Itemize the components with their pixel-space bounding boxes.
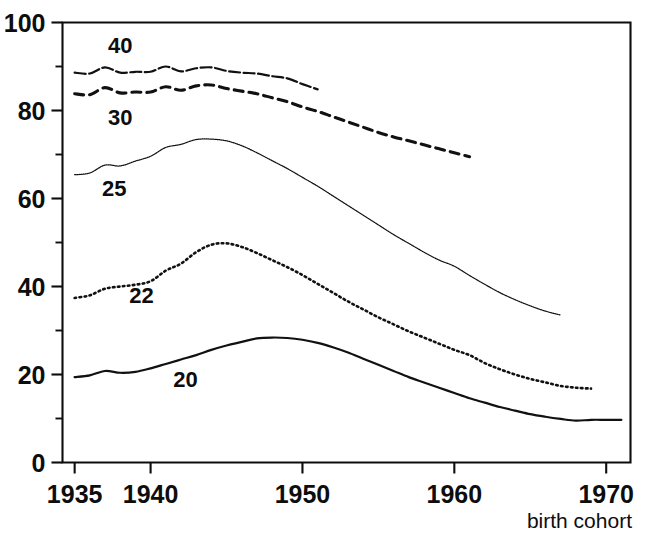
series-label-20: 20 [173,367,197,392]
x-tick-label-1935: 1935 [47,480,103,508]
y-tick-label-20: 20 [18,361,46,389]
chart-container: 0204060801001935194019501960197040302522… [0,0,645,536]
y-tick-label-60: 60 [18,185,46,213]
series-curve-20 [75,338,622,421]
y-tick-label-40: 40 [18,273,46,301]
y-tick-label-100: 100 [4,9,46,37]
x-tick-label-1960: 1960 [427,480,483,508]
x-tick-label-1940: 1940 [123,480,179,508]
series-label-30: 30 [108,105,132,130]
series-curve-30 [75,85,470,157]
y-tick-label-80: 80 [18,97,46,125]
plot-frame [63,23,631,463]
series-label-25: 25 [102,176,126,201]
line-chart: 0204060801001935194019501960197040302522… [0,0,645,536]
y-tick-label-0: 0 [32,449,46,477]
x-axis-title: birth cohort [527,509,632,532]
x-tick-label-1970: 1970 [578,480,634,508]
series-label-40: 40 [108,33,132,58]
x-tick-label-1950: 1950 [275,480,331,508]
series-label-22: 22 [129,283,153,308]
series-curve-22 [75,243,591,388]
